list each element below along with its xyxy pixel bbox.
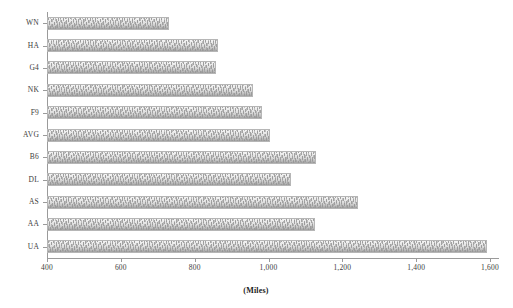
bar-row: [0, 196, 513, 209]
y-tick-mark: [43, 113, 47, 114]
x-tick-label-600: 600: [115, 263, 127, 272]
bar-row: [0, 173, 513, 186]
x-axis-line: [47, 258, 499, 259]
y-tick-label-b6: B6: [0, 152, 39, 161]
bar-nk[interactable]: [47, 84, 253, 97]
x-tick-label-1600: 1,600: [481, 263, 499, 272]
bar-row: [0, 84, 513, 97]
bar-row: [0, 151, 513, 164]
x-tick-mark: [269, 258, 270, 262]
bar-chart: WNHAG4NKF9AVGB6DLASAAUA 4006008001,0001,…: [0, 0, 513, 308]
y-tick-mark: [43, 68, 47, 69]
bar-row: [0, 17, 513, 30]
bar-ha[interactable]: [47, 39, 218, 52]
bar-dl[interactable]: [47, 173, 291, 186]
y-tick-label-dl: DL: [0, 175, 39, 184]
y-tick-label-as: AS: [0, 197, 39, 206]
y-tick-label-wn: WN: [0, 18, 39, 27]
x-tick-mark: [121, 258, 122, 262]
bar-row: [0, 61, 513, 74]
x-tick-label-1400: 1,400: [407, 263, 425, 272]
bar-ua[interactable]: [47, 240, 487, 253]
x-tick-mark: [47, 258, 48, 262]
x-tick-label-1200: 1,200: [333, 263, 351, 272]
y-tick-label-f9: F9: [0, 108, 39, 117]
y-tick-mark: [43, 202, 47, 203]
bar-row: [0, 39, 513, 52]
x-tick-label-400: 400: [41, 263, 53, 272]
y-tick-mark: [43, 23, 47, 24]
y-tick-mark: [43, 180, 47, 181]
bar-b6[interactable]: [47, 151, 316, 164]
bar-avg[interactable]: [47, 129, 270, 142]
bar-row: [0, 129, 513, 142]
bar-g4[interactable]: [47, 61, 216, 74]
bar-wn[interactable]: [47, 17, 169, 30]
y-tick-label-aa: AA: [0, 219, 39, 228]
y-tick-mark: [43, 46, 47, 47]
x-tick-mark: [342, 258, 343, 262]
y-tick-mark: [43, 224, 47, 225]
x-tick-mark: [416, 258, 417, 262]
y-tick-label-g4: G4: [0, 63, 39, 72]
x-tick-label-1000: 1,000: [260, 263, 278, 272]
y-tick-label-avg: AVG: [0, 130, 39, 139]
bar-row: [0, 218, 513, 231]
bar-row: [0, 240, 513, 253]
y-tick-mark: [43, 135, 47, 136]
y-tick-mark: [43, 247, 47, 248]
bar-aa[interactable]: [47, 218, 315, 231]
y-tick-label-ha: HA: [0, 41, 39, 50]
y-tick-label-nk: NK: [0, 85, 39, 94]
y-tick-mark: [43, 90, 47, 91]
bar-row: [0, 106, 513, 119]
x-tick-mark: [195, 258, 196, 262]
x-tick-mark: [490, 258, 491, 262]
x-axis-title: (Miles): [243, 286, 268, 295]
x-tick-label-800: 800: [189, 263, 201, 272]
bar-f9[interactable]: [47, 106, 262, 119]
y-tick-label-ua: UA: [0, 242, 39, 251]
bar-as[interactable]: [47, 196, 358, 209]
y-tick-mark: [43, 157, 47, 158]
